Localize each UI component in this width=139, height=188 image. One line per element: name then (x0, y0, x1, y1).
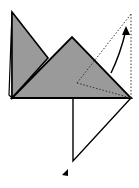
small-arrowhead-icon (62, 169, 68, 176)
curved-arrow-icon (111, 30, 126, 73)
origami-diagram (0, 0, 139, 188)
curved-arrow-head-icon (122, 26, 130, 35)
lower-white-flap (73, 98, 131, 161)
